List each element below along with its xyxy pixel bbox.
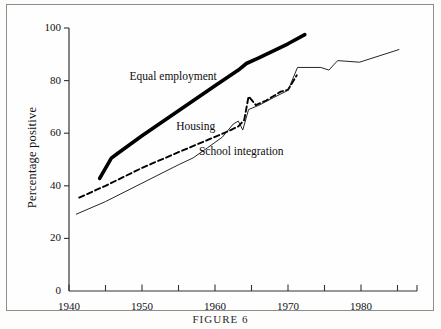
x-tick-label: 1960 xyxy=(193,300,237,312)
y-tick-label: 20 xyxy=(23,231,61,243)
figure-container: Percentage positive 02040608010019401950… xyxy=(0,0,441,329)
series-label-school-integration: School integration xyxy=(199,145,284,157)
series-line-school-integration xyxy=(76,50,399,215)
y-tick-label: 40 xyxy=(23,179,61,191)
x-tick-label: 1940 xyxy=(47,300,91,312)
x-tick-label: 1980 xyxy=(339,300,383,312)
y-tick-label: 60 xyxy=(23,126,61,138)
y-tick-label: 100 xyxy=(23,21,61,33)
x-tick-label: 1950 xyxy=(120,300,164,312)
y-tick-label: 80 xyxy=(23,74,61,86)
line-chart-svg xyxy=(0,0,441,329)
series-group xyxy=(76,35,399,215)
x-tick-label: 1970 xyxy=(266,300,310,312)
y-tick-label: 0 xyxy=(23,284,61,296)
figure-caption: FIGURE 6 xyxy=(0,313,441,327)
series-label-housing: Housing xyxy=(176,120,215,132)
series-line-housing xyxy=(79,75,297,197)
series-label-equal-employment: Equal employment xyxy=(130,70,217,82)
chart-plot-area xyxy=(0,0,441,329)
